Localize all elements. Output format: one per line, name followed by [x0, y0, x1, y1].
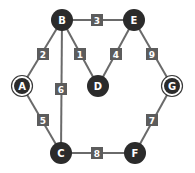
edge-weight-label: 2 [37, 48, 49, 60]
weight-text: 2 [40, 50, 46, 60]
weight-text: 6 [58, 85, 64, 95]
edge-weight-label: 1 [74, 48, 86, 60]
node-label: F [132, 148, 139, 159]
node-f: F [124, 142, 146, 164]
weighted-graph-diagram: 321496578 ABCDEFG [0, 0, 195, 173]
node-d: D [87, 75, 109, 97]
edge-weight-label: 5 [37, 114, 49, 126]
node-label: B [58, 15, 66, 26]
node-c: C [50, 142, 72, 164]
node-label: C [57, 148, 64, 159]
edge-weight-label: 8 [91, 147, 103, 159]
nodes-layer: ABCDEFG [12, 9, 183, 164]
edge-weight-label: 9 [146, 48, 158, 60]
weight-text: 7 [149, 116, 155, 126]
node-label: A [18, 81, 26, 92]
edge-weight-label: 6 [55, 83, 67, 95]
node-b: B [51, 9, 73, 31]
node-label: E [131, 15, 138, 26]
weight-text: 4 [113, 50, 119, 60]
weight-text: 5 [40, 116, 46, 126]
node-label: G [168, 81, 176, 92]
edge-weight-label: 7 [146, 114, 158, 126]
node-label: D [94, 81, 102, 92]
edge-weight-label: 3 [91, 14, 103, 26]
node-g: G [162, 76, 183, 97]
edge-weight-label: 4 [110, 48, 122, 60]
node-a: A [12, 76, 33, 97]
weight-text: 3 [94, 16, 100, 26]
weight-text: 9 [149, 50, 155, 60]
weight-text: 8 [94, 149, 100, 159]
weight-text: 1 [77, 50, 83, 60]
node-e: E [123, 9, 145, 31]
